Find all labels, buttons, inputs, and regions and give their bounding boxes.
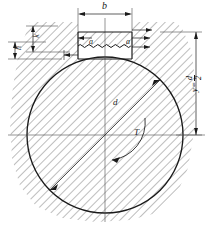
label-diameter-d: d bbox=[113, 98, 118, 107]
label-torque-T: T bbox=[134, 128, 139, 137]
label-a-left: a bbox=[89, 38, 93, 46]
label-y: y bbox=[190, 88, 199, 92]
label-height-h: h bbox=[15, 46, 23, 50]
label-equals: = bbox=[190, 82, 199, 87]
label-a-right: a bbox=[126, 38, 130, 46]
technical-drawing-canvas: b a a h k d T y = d 2 bbox=[0, 0, 210, 225]
label-radius-y-equals-d-over-2: y = d 2 bbox=[183, 46, 197, 92]
label-height-k: k bbox=[33, 34, 41, 38]
label-keyway-width-b: b bbox=[102, 1, 107, 11]
fraction-denominator: 2 bbox=[195, 75, 203, 81]
fraction-d-over-2: d 2 bbox=[186, 75, 204, 81]
